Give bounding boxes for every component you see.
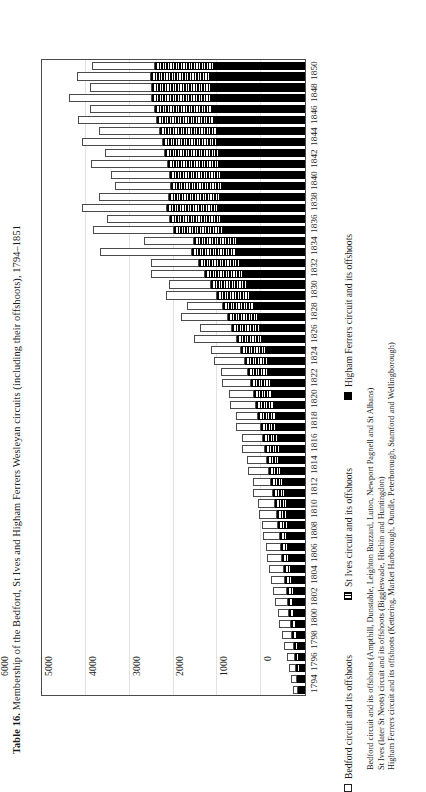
bar-segment-si [152,94,212,102]
legend-label: Bedford circuit and its offshoots [343,655,354,779]
bar-segment-si [160,127,217,135]
bar-segment-si [273,489,285,497]
bar-segment-bf [82,138,162,146]
bar-segment-si [284,565,292,573]
bar-segment-hf [287,499,305,507]
value-tick-label: 6000 [0,656,11,700]
bar-segment-hf [281,456,305,464]
bar-segment-hf [270,368,305,376]
value-tick-label: 5000 [43,656,55,700]
bar-segment-bf [289,664,296,672]
bar-segment-hf [280,445,305,453]
bar-segment-si [251,379,272,387]
bar-row [229,390,305,398]
legend-item-bedford: Bedford circuit and its offshoots [340,655,356,792]
bar-segment-hf [293,576,305,584]
bar-row [115,182,305,190]
bar-row [248,467,305,475]
bar-row [151,259,305,267]
bar-segment-hf [223,215,305,223]
bar-segment-bf [287,653,295,661]
bar-row [144,237,305,245]
bar-segment-bf [77,72,151,80]
bar-segment-hf [298,642,305,650]
legend-item-stives: St Ives circuit and its offshoots [340,468,356,600]
bar-segment-si [265,445,280,453]
bar-segment-bf [69,94,152,102]
bar-segment-hf [283,467,305,475]
bar-segment-hf [263,335,305,343]
bar-segment-bf [151,270,205,278]
bar-segment-bf [92,62,155,70]
footnote: Higham Ferrers circuit and its offshoots… [387,10,399,770]
bar-segment-hf [213,105,305,113]
bar-row [278,609,305,617]
bar-row [92,62,305,70]
bar-segment-bf [151,259,199,267]
bar-row [253,478,305,486]
bar-segment-hf [218,138,305,146]
bar-segment-bf [253,489,273,497]
chart-legend: Bedford circuit and its offshootsSt Ives… [338,40,364,760]
bar-row [242,445,305,453]
bar-segment-hf [294,598,305,606]
bar-segment-si [168,160,221,168]
bar-row [151,270,305,278]
bar-segment-si [170,215,222,223]
bar-row [99,193,305,201]
bar-segment-bf [248,467,269,475]
bar-segment-si [263,434,279,442]
bar-row [236,412,305,420]
bar-row [279,620,305,628]
value-tick-label: 0 [262,656,274,700]
bar-segment-hf [294,587,305,595]
bar-segment-si [163,138,219,146]
bar-segment-si [228,313,258,321]
bar-row [284,642,305,650]
bar-segment-hf [260,324,305,332]
bar-row [194,335,305,343]
bar-row [200,324,305,332]
bar-segment-hf [215,116,305,124]
bar-segment-si [223,302,255,310]
bar-segment-si [267,456,281,464]
bar-segment-bf [259,510,277,518]
bar-segment-bf [275,598,288,606]
value-tick-label: 2000 [174,656,186,700]
bar-segment-hf [244,270,305,278]
bar-row [214,357,305,365]
bar-row [107,215,305,223]
bar-row [111,171,305,179]
bar-segment-hf [224,226,305,234]
bar-segment-bf [93,226,173,234]
legend-label: St Ives circuit and its offshoots [343,468,354,587]
bar-segment-si [258,412,276,420]
hatched-square-icon [344,592,352,600]
bar-segment-hf [258,313,305,321]
bar-segment-bf [90,83,153,91]
bar-segment-bf [144,237,194,245]
bar-segment-si [280,532,290,540]
bar-segment-si [151,72,211,80]
value-tick-label: 3000 [131,656,143,700]
table-label: Table 16. [11,713,22,754]
bar-segment-si [277,510,288,518]
bar-segment-hf [289,532,305,540]
bar-segment-bf [229,390,254,398]
bar-segment-hf [247,280,305,288]
bar-row [271,576,305,584]
bar-segment-si [278,521,288,529]
bar-row [187,302,305,310]
bar-segment-bf [269,565,283,573]
bar-segment-hf [214,62,305,70]
bar-segment-hf [301,686,305,694]
bar-segment-si [192,248,236,256]
bar-segment-bf [100,248,192,256]
bar-segment-bf [271,576,285,584]
bar-row [93,226,305,234]
bar-row [221,368,305,376]
bar-row [169,280,305,288]
bar-segment-hf [296,620,305,628]
bar-row [289,664,305,672]
white-square-icon [344,784,352,792]
